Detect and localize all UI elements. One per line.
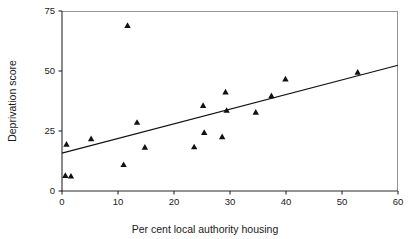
- regression-line-path: [62, 65, 398, 153]
- x-tick-label: 40: [281, 196, 292, 207]
- x-axis-ticks: 0102030405060: [59, 191, 403, 207]
- data-point-marker: [124, 22, 130, 28]
- data-point-marker: [88, 135, 94, 141]
- data-point-marker: [68, 173, 74, 179]
- y-tick-label: 75: [44, 5, 55, 16]
- x-tick-label: 60: [393, 196, 404, 207]
- data-point-marker: [134, 119, 140, 125]
- x-tick-label: 0: [59, 196, 64, 207]
- y-tick-label: 25: [44, 125, 55, 136]
- data-point-series: [62, 22, 361, 178]
- regression-line: [62, 65, 398, 153]
- y-axis-title: Deprivation score: [6, 60, 18, 142]
- x-tick-label: 30: [225, 196, 236, 207]
- x-tick-label: 50: [337, 196, 348, 207]
- x-axis-title: Per cent local authority housing: [132, 223, 279, 235]
- data-point-marker: [282, 76, 288, 82]
- data-point-marker: [222, 89, 228, 95]
- data-point-marker: [63, 141, 69, 147]
- x-tick-label: 20: [169, 196, 180, 207]
- y-tick-label: 50: [44, 65, 55, 76]
- y-tick-label: 0: [50, 185, 55, 196]
- data-point-marker: [268, 93, 274, 99]
- x-tick-label: 10: [113, 196, 124, 207]
- data-point-marker: [253, 109, 259, 115]
- data-point-marker: [219, 134, 225, 140]
- y-axis-ticks: 0255075: [44, 5, 62, 196]
- data-point-marker: [201, 129, 207, 135]
- data-point-marker: [354, 69, 360, 75]
- data-point-marker: [120, 161, 126, 167]
- axes: [62, 11, 399, 192]
- data-point-marker: [62, 172, 68, 178]
- chart-canvas: 0255075 0102030405060 Per cent local aut…: [0, 0, 410, 239]
- data-point-marker: [200, 102, 206, 108]
- scatter-plot-figure: 0255075 0102030405060 Per cent local aut…: [0, 0, 410, 239]
- data-point-marker: [142, 144, 148, 150]
- plot-frame: [62, 12, 398, 192]
- data-point-marker: [191, 144, 197, 150]
